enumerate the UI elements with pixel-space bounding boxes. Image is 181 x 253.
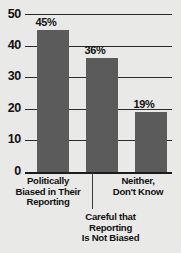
bar-careful-not-biased [86,58,118,172]
y-axis-tick-40: 40 [0,39,21,52]
bar-chart: 50 40 30 20 10 0 45% 36% 19% Politically… [0,0,181,253]
plot-area [25,14,172,172]
category-label-line: Don't Know [98,187,178,198]
category-label-neither-dont-know: Neither, Don't Know [98,176,178,197]
category-label-politically-biased: Politically Biased in Their Reporting [2,176,94,208]
y-axis-tick-10: 10 [0,133,21,146]
bar-value-label-2: 36% [72,45,118,56]
y-axis-tick-50: 50 [0,8,21,21]
x-axis-baseline [25,172,172,174]
bar-neither-dont-know [135,112,167,172]
bar-politically-biased [37,30,69,172]
category-label-line: Reporting [2,197,94,208]
category-label-careful-not-biased: Careful that Reporting Is Not Biased [44,212,177,244]
bar-value-label-3: 19% [121,99,167,110]
gridline-50 [25,14,172,15]
y-axis-tick-30: 30 [0,70,21,83]
category-label-line: Is Not Biased [44,233,177,244]
leader-line-careful-not-biased [92,173,93,209]
bar-value-label-1: 45% [23,17,69,28]
y-axis-tick-20: 20 [0,102,21,115]
